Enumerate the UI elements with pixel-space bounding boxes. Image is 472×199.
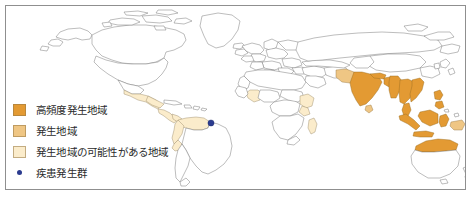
legend-label-high-incidence: 高頻度発生地域 (36, 104, 107, 116)
legend-dot-marker (13, 167, 26, 179)
world-map-figure: .ln { fill:#ffffff; stroke:#6b6b6b; stro… (0, 0, 472, 199)
legend-item-possible-occurrence: 発生地域の可能性がある地域 (13, 141, 223, 162)
legend-label-outbreak-cluster: 疾患発生群 (36, 167, 87, 179)
outbreak-dot-icon (17, 170, 22, 175)
map-legend: 高頻度発生地域 発生地域 発生地域の可能性がある地域 疾患発生群 (13, 99, 223, 183)
legend-item-outbreak-cluster: 疾患発生群 (13, 162, 223, 183)
legend-swatch-occurrence (13, 125, 26, 137)
legend-swatch-high-incidence (13, 104, 26, 116)
legend-label-possible-occurrence: 発生地域の可能性がある地域 (36, 146, 169, 158)
legend-label-occurrence: 発生地域 (36, 125, 77, 137)
legend-swatch-possible-occurrence (13, 146, 26, 158)
legend-item-high-incidence: 高頻度発生地域 (13, 99, 223, 120)
legend-item-occurrence: 発生地域 (13, 120, 223, 141)
